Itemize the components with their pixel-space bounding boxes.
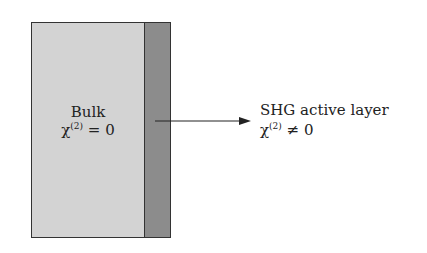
bulk-title: Bulk [31,103,145,121]
chi-order: (2) [70,121,83,131]
chi-symbol: χ [61,121,70,139]
shg-active-layer-region [145,22,171,238]
shg-label: SHG active layer χ(2) ≠ 0 [260,100,389,140]
arrow-right-icon [155,114,255,128]
chi-symbol: χ [260,121,269,139]
shg-equation: χ(2) ≠ 0 [260,120,389,140]
shg-title: SHG active layer [260,100,389,120]
bulk-equation: χ(2) = 0 [31,121,145,139]
chi-order: (2) [269,121,282,131]
shg-relation: ≠ 0 [282,121,314,139]
bulk-relation: = 0 [83,121,115,139]
bulk-label: Bulk χ(2) = 0 [31,103,145,139]
